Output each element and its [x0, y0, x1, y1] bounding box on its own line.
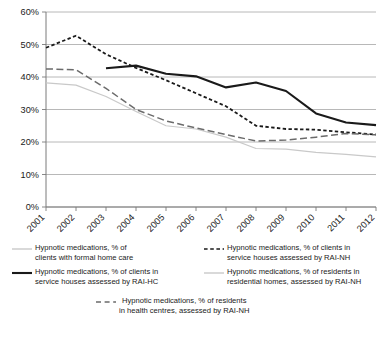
svg-text:2008: 2008	[235, 212, 257, 234]
legend-item-label: Hypnotic medications, % of clients in se…	[35, 267, 158, 287]
svg-text:30%: 30%	[21, 105, 39, 115]
svg-text:2004: 2004	[115, 212, 137, 234]
legend-swatch-line-icon	[12, 244, 32, 254]
legend-swatch-line-icon	[204, 268, 224, 278]
svg-text:2005: 2005	[145, 212, 167, 234]
legend-item-label: Hypnotic medications, % of residents in …	[119, 296, 249, 316]
svg-text:2002: 2002	[55, 212, 77, 234]
legend-item-residential-homes-rai-nh[interactable]: Hypnotic medications, % of residents in …	[204, 267, 392, 287]
svg-text:2001: 2001	[25, 212, 47, 234]
svg-text:60%: 60%	[21, 7, 39, 17]
chart-figure: 0%10%20%30%40%50%60% 2001200220032004200…	[0, 0, 392, 338]
svg-text:2007: 2007	[205, 212, 227, 234]
svg-text:2006: 2006	[175, 212, 197, 234]
x-axis-ticks	[46, 207, 376, 211]
svg-text:2009: 2009	[265, 212, 287, 234]
svg-text:20%: 20%	[21, 137, 39, 147]
svg-text:2010: 2010	[295, 212, 317, 234]
gridlines	[46, 12, 376, 207]
legend-item-service-houses-rai-hc[interactable]: Hypnotic medications, % of clients in se…	[12, 267, 198, 287]
legend-item-label: Hypnotic medications, % of clients with …	[35, 243, 133, 263]
legend-item-health-centres-rai-nh[interactable]: Hypnotic medications, % of residents in …	[96, 296, 326, 316]
y-axis-tick-labels: 0%10%20%30%40%50%60%	[21, 7, 39, 212]
svg-text:2003: 2003	[85, 212, 107, 234]
legend-item-label: Hypnotic medications, % of residents in …	[227, 267, 361, 287]
svg-text:2012: 2012	[355, 212, 377, 234]
legend-swatch-line-icon	[12, 268, 32, 278]
legend-item-clients-formal-home-care[interactable]: Hypnotic medications, % of clients with …	[12, 243, 192, 263]
x-axis-tick-labels: 2001200220032004200520062007200820092010…	[25, 212, 377, 234]
svg-text:40%: 40%	[21, 72, 39, 82]
y-axis-ticks	[42, 12, 46, 207]
svg-text:2011: 2011	[325, 212, 346, 233]
svg-text:50%: 50%	[21, 40, 39, 50]
legend-item-service-houses-rai-nh[interactable]: Hypnotic medications, % of clients in se…	[204, 243, 392, 263]
data-series-group	[46, 36, 376, 157]
legend-swatch-line-icon	[204, 244, 224, 254]
svg-text:0%: 0%	[26, 202, 39, 212]
line-chart-plot: 0%10%20%30%40%50%60% 2001200220032004200…	[0, 0, 392, 245]
svg-text:10%: 10%	[21, 170, 39, 180]
legend-swatch-line-icon	[96, 297, 116, 307]
legend-item-label: Hypnotic medications, % of clients in se…	[227, 243, 350, 263]
